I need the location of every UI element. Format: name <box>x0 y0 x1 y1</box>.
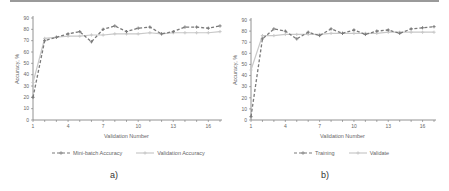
svg-text:Accuracy, %: Accuracy, % <box>14 54 20 84</box>
chart-panel-a: 0102030405060708090147101316Validation N… <box>0 0 224 191</box>
svg-text:60: 60 <box>241 50 247 56</box>
svg-text:10: 10 <box>241 106 247 112</box>
svg-text:0: 0 <box>244 117 247 123</box>
legend-label: Mini-batch Accuracy <box>73 150 122 156</box>
legend-label: Training <box>315 150 335 156</box>
svg-text:7: 7 <box>102 123 105 129</box>
solid-line-marker-icon <box>349 150 367 156</box>
legend-a: Mini-batch Accuracy Validation Accuracy <box>52 150 219 156</box>
svg-text:Accuracy, %: Accuracy, % <box>232 55 238 85</box>
svg-text:90: 90 <box>241 17 247 23</box>
svg-text:30: 30 <box>241 83 247 89</box>
svg-text:0: 0 <box>26 117 29 123</box>
chart-panel-b: 0102030405060708090147101316Validation N… <box>224 0 448 191</box>
solid-line-marker-icon <box>136 150 154 156</box>
svg-text:80: 80 <box>241 28 247 34</box>
svg-text:16: 16 <box>420 123 426 129</box>
svg-text:Validation Number: Validation Number <box>104 133 149 139</box>
svg-text:10: 10 <box>23 105 29 111</box>
svg-text:90: 90 <box>23 15 29 21</box>
svg-text:Validation Number: Validation Number <box>320 133 365 139</box>
svg-text:10: 10 <box>351 123 357 129</box>
legend-item-series-1: Mini-batch Accuracy <box>52 150 122 156</box>
svg-text:50: 50 <box>241 61 247 67</box>
svg-text:16: 16 <box>206 123 212 129</box>
dashed-line-marker-icon <box>52 150 70 156</box>
svg-text:50: 50 <box>23 60 29 66</box>
line-chart-b: 0102030405060708090147101316Validation N… <box>224 0 448 150</box>
svg-text:40: 40 <box>241 72 247 78</box>
line-chart-a: 0102030405060708090147101316Validation N… <box>0 0 224 150</box>
legend-item-series-1: Training <box>294 150 335 156</box>
svg-text:4: 4 <box>284 123 287 129</box>
svg-text:30: 30 <box>23 83 29 89</box>
legend-b: Training Validate <box>294 150 403 156</box>
panel-label-a: a) <box>110 170 118 180</box>
svg-text:10: 10 <box>135 123 141 129</box>
panel-label-b: b) <box>321 170 329 180</box>
svg-text:70: 70 <box>23 37 29 43</box>
svg-text:13: 13 <box>385 123 391 129</box>
legend-label: Validation Accuracy <box>157 150 205 156</box>
svg-text:13: 13 <box>170 123 176 129</box>
svg-text:1: 1 <box>250 123 253 129</box>
dashed-line-marker-icon <box>294 150 312 156</box>
legend-label: Validate <box>370 150 389 156</box>
svg-text:20: 20 <box>241 95 247 101</box>
svg-text:60: 60 <box>23 49 29 55</box>
svg-text:80: 80 <box>23 26 29 32</box>
svg-text:20: 20 <box>23 94 29 100</box>
legend-item-series-2: Validation Accuracy <box>136 150 205 156</box>
legend-item-series-2: Validate <box>349 150 389 156</box>
svg-text:70: 70 <box>241 39 247 45</box>
svg-text:40: 40 <box>23 71 29 77</box>
svg-text:1: 1 <box>32 123 35 129</box>
svg-text:7: 7 <box>318 123 321 129</box>
svg-text:4: 4 <box>67 123 70 129</box>
